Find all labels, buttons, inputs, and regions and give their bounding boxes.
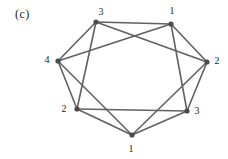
graph-edge-right--bottom: [132, 62, 207, 135]
graph-edge-left--bottom: [58, 61, 132, 135]
vertex-dot-bottom-left: [74, 106, 79, 111]
vertex-label-right: 2: [215, 55, 220, 66]
vertex-label-bottom-right: 3: [195, 105, 200, 116]
graph-edge-bottom-left--bottom-right: [77, 109, 187, 111]
vertex-dot-top-right: [168, 21, 173, 26]
graph-edge-bottom-left--left: [58, 61, 77, 109]
graph-edge-top-right--bottom-right: [171, 24, 187, 111]
labels-layer: 3142231: [45, 5, 220, 154]
vertex-label-left: 4: [45, 54, 50, 65]
graph-diagram: 3142231: [0, 0, 228, 159]
vertex-dot-top-left: [93, 19, 98, 24]
figure-canvas: (c) 3142231: [0, 0, 228, 159]
graph-edge-bottom--bottom-left: [77, 109, 132, 135]
graph-edge-bottom-right--bottom: [132, 111, 187, 135]
vertex-label-bottom-left: 2: [62, 103, 67, 114]
vertex-dot-bottom: [129, 132, 134, 137]
vertex-label-bottom: 1: [129, 143, 134, 154]
vertex-dot-bottom-right: [184, 108, 189, 113]
edges-layer: [58, 22, 207, 135]
vertex-dot-left: [55, 58, 60, 63]
graph-edge-top-left--right: [96, 22, 207, 62]
vertex-dot-right: [204, 59, 209, 64]
vertex-label-top-right: 1: [170, 5, 175, 16]
graph-edge-top-left--top-right: [96, 22, 171, 24]
vertex-label-top-left: 3: [99, 6, 104, 17]
graph-edge-right--bottom-right: [187, 62, 207, 111]
